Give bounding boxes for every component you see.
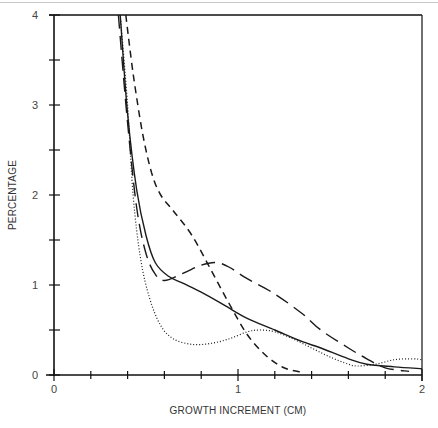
y-tick-label: 4 <box>32 9 38 21</box>
series-dotted-line <box>120 15 422 366</box>
line-chart: 01201234 GROWTH INCREMENT (CM) PERCENTAG… <box>0 0 438 428</box>
y-tick-label: 0 <box>32 369 38 381</box>
series-long-dash-line <box>118 15 409 371</box>
tick-labels: 01201234 <box>32 9 425 395</box>
series-solid-line <box>120 15 422 369</box>
series-lines <box>118 15 422 372</box>
x-tick-label: 0 <box>51 383 57 395</box>
y-axis-label: PERCENTAGE <box>7 160 18 230</box>
y-tick-label: 1 <box>32 279 38 291</box>
plot-frame <box>46 15 422 381</box>
axis-ticks <box>49 15 422 381</box>
series-short-dash-line <box>126 15 303 372</box>
x-axis-label: GROWTH INCREMENT (CM) <box>170 405 307 416</box>
x-tick-label: 2 <box>419 383 425 395</box>
y-tick-label: 3 <box>32 99 38 111</box>
x-tick-label: 1 <box>235 383 241 395</box>
y-tick-label: 2 <box>32 189 38 201</box>
